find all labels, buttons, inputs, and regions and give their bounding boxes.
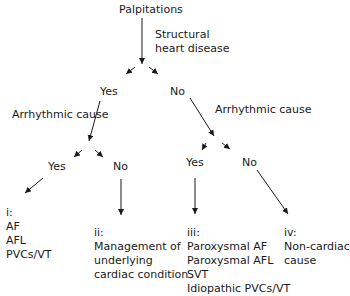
arrow-to-iv [257,170,288,214]
outcome-i-line: AF [6,220,52,234]
outcome-iii-line: SVT [187,268,290,282]
outcome-iii: iii: Paroxysmal AF Paroxysmal AFL SVT Id… [187,226,290,296]
outcome-i-line: PVCs/VT [6,248,52,262]
outcome-iii-line: Paroxysmal AFL [187,254,290,268]
branch-yes-left: Yes [48,160,66,174]
outcome-iv-line: Non-cardiac [284,240,350,254]
outcome-iii-line: Idiopathic PVCs/VT [187,282,290,296]
arrow-right-yes [202,143,206,150]
outcome-iv: iv: Non-cardiac cause [284,226,350,268]
outcome-ii-line: Management of [94,240,188,254]
arrow-to-yes [126,67,135,74]
branch-no-left: No [113,160,128,174]
question-structural-line1: Structural [155,28,209,42]
branch-no-structural: No [170,85,185,99]
outcome-ii-label: ii: [94,226,188,240]
outcome-i-label: i: [6,206,52,220]
outcome-ii: ii: Management of underlying cardiac con… [94,226,188,282]
outcome-i-line: AFL [6,234,52,248]
arrow-to-no [149,67,158,74]
outcome-iv-line: cause [284,254,350,268]
outcome-iv-label: iv: [284,226,350,240]
outcome-iii-line: Paroxysmal AF [187,240,290,254]
arrow-right-no [222,143,230,149]
arrow-left-yes [74,150,82,157]
question-structural-line2: heart disease [155,42,230,56]
arrow-left-no [95,150,103,157]
arrow-no-down [190,98,214,136]
question-arrhythmic-left: Arrhythmic cause [12,108,109,122]
branch-no-right: No [242,156,257,170]
arrow-to-i [25,178,43,193]
outcome-ii-line: cardiac condition [94,268,188,282]
root-node: Palpitations [119,3,183,17]
branch-yes-right: Yes [186,156,204,170]
outcome-i: i: AF AFL PVCs/VT [6,206,52,262]
outcome-iii-label: iii: [187,226,290,240]
branch-yes-structural: Yes [100,85,118,99]
question-arrhythmic-right: Arrhythmic cause [215,103,312,117]
outcome-ii-line: underlying [94,254,188,268]
